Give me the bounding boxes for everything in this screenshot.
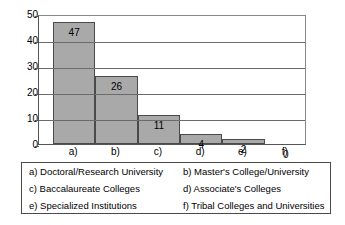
legend-item-a: a) Doctoral/Research University: [22, 163, 180, 180]
bar-value-label: 11: [138, 121, 180, 131]
bar: [53, 22, 95, 144]
y-tick-label: 50: [8, 10, 38, 20]
bar-value-label: 26: [95, 82, 137, 92]
legend-item-b: b) Master's College/University: [180, 163, 330, 180]
legend-item-f: f) Tribal Colleges and Universities: [180, 197, 330, 214]
y-tick-label: 0: [8, 140, 38, 150]
y-tick-label: 40: [8, 36, 38, 46]
y-tick-label: 30: [8, 62, 38, 72]
x-tick-label: d): [179, 146, 221, 158]
x-tick-label: b): [94, 146, 136, 158]
bar-value-label: 47: [53, 28, 95, 38]
y-tick-mark: [35, 42, 39, 43]
gridline: [39, 68, 305, 69]
x-axis: a)b)c)d)e)f): [38, 146, 306, 160]
legend-item-c: c) Baccalaureate Colleges: [22, 180, 180, 197]
y-tick-mark: [35, 120, 39, 121]
legend-row: a) Doctoral/Research Universityb) Master…: [22, 163, 330, 180]
x-tick-label: e): [221, 146, 263, 158]
y-tick-mark: [35, 94, 39, 95]
y-tick-mark: [35, 16, 39, 17]
x-tick-label: c): [137, 146, 179, 158]
x-tick-label: a): [52, 146, 94, 158]
y-tick-mark: [35, 68, 39, 69]
y-tick-label: 20: [8, 88, 38, 98]
bars-layer: 472611420: [39, 16, 305, 144]
legend-row: c) Baccalaureate Collegesd) Associate's …: [22, 180, 330, 197]
bar-chart-figure: 01020304050 472611420 a)b)c)d)e)f) a) Do…: [0, 0, 345, 225]
legend: a) Doctoral/Research Universityb) Master…: [21, 162, 331, 214]
legend-item-e: e) Specialized Institutions: [22, 197, 180, 214]
plot-wrapper: 01020304050 472611420 a)b)c)d)e)f): [8, 8, 338, 158]
y-tick-label: 10: [8, 114, 38, 124]
gridline: [39, 120, 305, 121]
plot-area: 472611420: [38, 15, 306, 145]
gridline: [39, 94, 305, 95]
legend-row: e) Specialized Institutionsf) Tribal Col…: [22, 197, 330, 214]
x-tick-label: f): [264, 146, 306, 158]
legend-item-d: d) Associate's Colleges: [180, 180, 330, 197]
gridline: [39, 42, 305, 43]
y-axis: 01020304050: [8, 8, 38, 148]
